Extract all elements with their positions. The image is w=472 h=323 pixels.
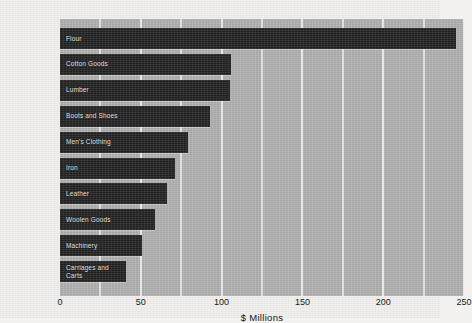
gridline xyxy=(463,19,464,296)
bar-category-label: Flour xyxy=(66,28,82,49)
bar-category-label: Iron xyxy=(66,158,78,179)
bar-category-label: Machinery xyxy=(66,235,97,256)
x-tick-label: 0 xyxy=(57,297,62,307)
gridline xyxy=(382,19,384,296)
bar: Flour xyxy=(60,28,456,49)
bar-category-label: Leather xyxy=(66,183,89,204)
bar: Machinery xyxy=(60,235,142,256)
x-tick-label: 200 xyxy=(376,297,391,307)
bar-category-label: Woolen Goods xyxy=(66,209,111,230)
bar: Cotton Goods xyxy=(60,54,231,75)
x-tick-label: 250 xyxy=(456,297,471,307)
plot-area: FlourCotton GoodsLumberBoots and ShoesMe… xyxy=(60,19,464,296)
x-tick-label: 100 xyxy=(214,297,229,307)
bar-chart-figure: FlourCotton GoodsLumberBoots and ShoesMe… xyxy=(40,16,400,302)
bar-category-label: Lumber xyxy=(66,80,89,101)
bar: Carriages and Carts xyxy=(60,261,126,282)
bar: Men's Clothing xyxy=(60,132,188,153)
gridline xyxy=(261,19,263,296)
bar-category-label: Boots and Shoes xyxy=(66,106,118,127)
bar-category-label: Men's Clothing xyxy=(66,132,111,153)
gridline xyxy=(342,19,344,296)
gridline xyxy=(301,19,303,296)
x-axis-tick-labels: 050100150200250 xyxy=(60,297,464,311)
bar-category-label: Carriages and Carts xyxy=(66,261,109,282)
bar-category-label: Cotton Goods xyxy=(66,54,108,75)
x-axis-title: $ Millions xyxy=(60,312,464,323)
bar: Leather xyxy=(60,183,167,204)
bar: Woolen Goods xyxy=(60,209,155,230)
bar: Iron xyxy=(60,158,175,179)
x-tick-label: 50 xyxy=(136,297,146,307)
x-tick-label: 150 xyxy=(295,297,310,307)
bar: Boots and Shoes xyxy=(60,106,210,127)
bar: Lumber xyxy=(60,80,230,101)
gridline xyxy=(423,19,425,296)
